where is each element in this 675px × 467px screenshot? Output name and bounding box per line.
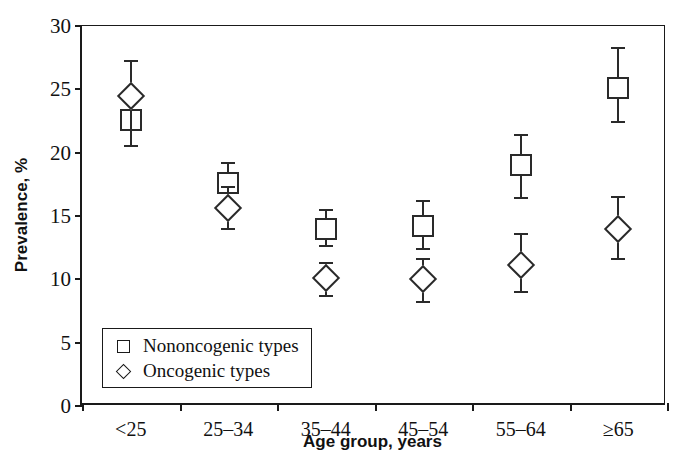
error-bar-cap-lower	[319, 245, 333, 247]
open-square-marker	[315, 218, 337, 240]
error-bar-cap-upper	[221, 186, 235, 188]
open-diamond-marker	[409, 265, 437, 293]
open-square-icon	[113, 335, 135, 357]
open-diamond-marker	[604, 215, 632, 243]
open-square-marker	[412, 215, 434, 237]
y-tick-label: 10	[50, 266, 71, 292]
legend-item-oncogenic: Oncogenic types	[113, 358, 311, 383]
y-tick-label: 20	[50, 140, 71, 166]
y-tick-mark	[75, 88, 82, 90]
y-tick-mark	[75, 215, 82, 217]
error-bar-cap-lower	[221, 228, 235, 230]
error-bar-cap-upper	[416, 200, 430, 202]
legend-label-oncogenic: Oncogenic types	[143, 360, 270, 382]
open-diamond-marker	[117, 82, 145, 110]
error-bar-cap-upper	[514, 134, 528, 136]
x-tick-mark	[570, 403, 572, 411]
y-tick-label: 5	[61, 330, 72, 356]
y-tick-label: 25	[50, 76, 71, 102]
legend-label-nononcogenic: Nononcogenic types	[143, 335, 299, 357]
y-tick-mark	[75, 152, 82, 154]
y-tick-mark	[75, 278, 82, 280]
open-diamond-icon	[113, 360, 135, 382]
open-diamond-marker	[214, 194, 242, 222]
y-tick-label: 15	[50, 203, 71, 229]
open-square-marker	[510, 154, 532, 176]
error-bar-cap-lower	[416, 248, 430, 250]
x-tick-mark	[472, 403, 474, 411]
prevalence-by-age-chart: Prevalence, % 051015202530 <2525–3435–44…	[0, 0, 675, 467]
y-axis-title: Prevalence, %	[12, 158, 32, 272]
error-bar-cap-upper	[416, 258, 430, 260]
error-bar-cap-upper	[319, 209, 333, 211]
error-bar-cap-upper	[124, 60, 138, 62]
x-tick-mark	[667, 403, 669, 411]
error-bar-cap-lower	[124, 145, 138, 147]
error-bar-cap-upper	[611, 196, 625, 198]
x-axis-title: Age group, years	[80, 432, 665, 452]
y-tick-mark	[75, 25, 82, 27]
y-tick-label: 0	[61, 393, 72, 419]
error-bar-cap-lower	[514, 197, 528, 199]
x-tick-mark	[180, 403, 182, 411]
error-bar-cap-lower	[611, 258, 625, 260]
y-tick-mark	[75, 342, 82, 344]
error-bar-cap-lower	[611, 121, 625, 123]
error-bar-cap-lower	[514, 291, 528, 293]
x-tick-mark	[277, 403, 279, 411]
x-tick-mark	[375, 403, 377, 411]
x-tick-mark	[82, 403, 84, 411]
open-diamond-marker	[312, 264, 340, 292]
error-bar-cap-upper	[611, 47, 625, 49]
legend: Nononcogenic types Oncogenic types	[102, 328, 312, 388]
y-tick-label: 30	[50, 13, 71, 39]
error-bar-cap-upper	[514, 233, 528, 235]
legend-item-nononcogenic: Nononcogenic types	[113, 333, 311, 358]
error-bar-cap-lower	[416, 301, 430, 303]
y-tick-mark	[75, 405, 82, 407]
error-bar-cap-lower	[319, 295, 333, 297]
open-diamond-marker	[507, 251, 535, 279]
open-square-marker	[607, 77, 629, 99]
error-bar-cap-upper	[221, 162, 235, 164]
